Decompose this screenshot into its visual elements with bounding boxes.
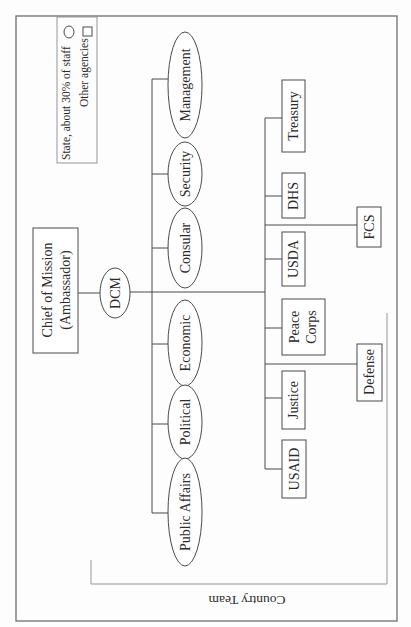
- peace-corps-label-line1: Peace: [287, 311, 302, 344]
- node-justice: Justice: [282, 371, 305, 429]
- fcs-label: FCS: [362, 215, 377, 240]
- node-treasury: Treasury: [282, 80, 305, 152]
- defense-label: Defense: [362, 349, 377, 395]
- node-economic: Economic: [168, 300, 202, 386]
- node-security: Security: [168, 142, 202, 206]
- peace-corps-label-line2: Corps: [304, 310, 319, 343]
- dcm-label: DCM: [108, 277, 123, 309]
- economic-label: Economic: [178, 315, 193, 372]
- country-team-bracket: Country Team: [91, 313, 387, 608]
- state-sections: Management Security Consular Economic Po…: [168, 32, 202, 566]
- node-fcs: FCS: [357, 207, 381, 247]
- usda-label: USDA: [286, 239, 301, 278]
- org-chart-diagram: State, about 30% of staff Other agencies: [0, 0, 411, 627]
- country-team-label: Country Team: [208, 593, 286, 608]
- legend-agencies-label: Other agencies: [78, 38, 91, 107]
- legend-state-label: State, about 30% of staff: [60, 46, 73, 160]
- node-defense: Defense: [357, 344, 382, 401]
- node-consular: Consular: [168, 208, 202, 288]
- legend-ellipse-icon: [64, 26, 74, 38]
- node-public-affairs: Public Affairs: [168, 458, 202, 566]
- justice-label: Justice: [286, 381, 301, 419]
- public-affairs-label: Public Affairs: [178, 473, 193, 551]
- node-chief-of-mission: Chief of Mission (Ambassador): [33, 228, 78, 353]
- node-usaid: USAID: [282, 440, 306, 498]
- other-agencies: Treasury DHS FCS USDA Peace Corps Def: [282, 80, 382, 498]
- consular-label: Consular: [178, 222, 193, 273]
- node-peace-corps: Peace Corps: [282, 299, 325, 355]
- node-dcm: DCM: [100, 268, 130, 318]
- dhs-label: DHS: [286, 182, 301, 210]
- treasury-label: Treasury: [286, 91, 301, 140]
- political-label: Political: [178, 399, 193, 446]
- usaid-label: USAID: [287, 448, 302, 491]
- node-dhs: DHS: [282, 173, 305, 218]
- security-label: Security: [178, 151, 193, 198]
- node-political: Political: [168, 385, 202, 459]
- chief-label-line1: Chief of Mission: [40, 243, 55, 338]
- legend: State, about 30% of staff Other agencies: [57, 17, 97, 163]
- legend-rectangle-icon: [83, 27, 92, 36]
- node-management: Management: [168, 32, 202, 138]
- chief-label-line2: (Ambassador): [58, 250, 74, 330]
- org-chart-canvas: State, about 30% of staff Other agencies: [0, 0, 411, 627]
- node-usda: USDA: [282, 232, 305, 286]
- management-label: Management: [178, 48, 193, 121]
